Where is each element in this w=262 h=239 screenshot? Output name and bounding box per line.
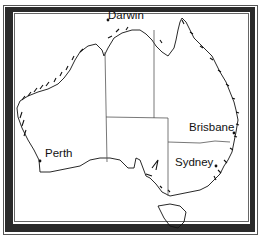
city-label-brisbane: Brisbane [189, 122, 234, 134]
city-markers [39, 19, 236, 168]
tasmania-outline [158, 204, 186, 228]
city-label-darwin: Darwin [108, 10, 144, 22]
city-label-sydney: Sydney [175, 157, 213, 169]
city-label-perth: Perth [45, 148, 73, 160]
australia-map [0, 0, 262, 239]
mainland-coastline [17, 18, 238, 196]
